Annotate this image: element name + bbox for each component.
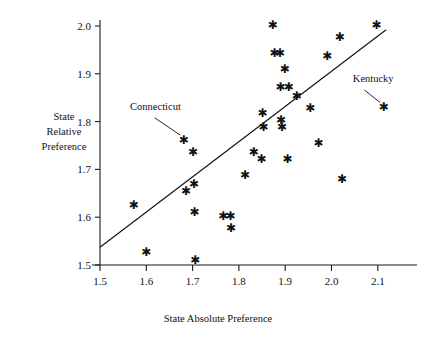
data-point[interactable]: ✱ (337, 172, 347, 186)
data-point[interactable]: ✱ (277, 120, 287, 134)
x-tick-label: 1.6 (139, 275, 153, 287)
data-point[interactable]: ✱ (379, 100, 389, 114)
data-point[interactable]: ✱ (240, 168, 250, 182)
data-point[interactable]: ✱ (188, 145, 198, 159)
annotation-label: Kentucky (353, 73, 395, 84)
data-point[interactable]: ✱ (257, 106, 267, 120)
x-tick-label: 2.1 (371, 275, 385, 287)
data-point[interactable]: ✱ (141, 245, 151, 259)
y-tick-label: 2.0 (77, 20, 91, 32)
chart-canvas: 1.51.61.71.81.92.01.51.61.71.81.92.02.1✱… (0, 0, 436, 339)
scatter-plot-figure: 1.51.61.71.81.92.01.51.61.71.81.92.02.1✱… (0, 0, 436, 339)
x-tick-label: 1.9 (278, 275, 292, 287)
y-axis-title-line: Relative (47, 126, 82, 137)
data-point[interactable]: ✱ (189, 177, 199, 191)
data-point[interactable]: ✱ (258, 120, 268, 134)
annotation-leader-line (155, 118, 180, 135)
data-point[interactable]: ✱ (322, 49, 332, 63)
x-tick-label: 2.0 (325, 275, 339, 287)
data-point[interactable]: ✱ (371, 18, 381, 32)
data-point[interactable]: ✱ (280, 62, 290, 76)
data-point[interactable]: ✱ (129, 198, 139, 212)
data-point[interactable]: ✱ (305, 101, 315, 115)
x-tick-label: 1.7 (186, 275, 200, 287)
regression-line (100, 30, 386, 247)
x-axis-title: State Absolute Preference (164, 313, 273, 324)
x-tick-label: 1.8 (232, 275, 246, 287)
y-tick-label: 1.9 (77, 68, 91, 80)
data-point[interactable]: ✱ (282, 152, 292, 166)
data-point[interactable]: ✱ (257, 152, 267, 166)
y-tick-label: 1.7 (77, 163, 91, 175)
data-point[interactable]: ✱ (335, 30, 345, 44)
data-point[interactable]: ✱ (292, 89, 302, 103)
annotation-label: Connecticut (130, 101, 181, 112)
annotation-leader-line (364, 90, 380, 102)
y-axis-title-line: Preference (42, 141, 87, 152)
data-point[interactable]: ✱ (275, 46, 285, 60)
data-point[interactable]: ✱ (314, 136, 324, 150)
x-tick-label: 1.5 (93, 275, 107, 287)
y-axis-title-line: State (54, 111, 75, 122)
data-point[interactable]: ✱ (268, 18, 278, 32)
data-point[interactable]: ✱ (190, 253, 200, 267)
data-point[interactable]: ✱ (226, 221, 236, 235)
y-tick-label: 1.5 (77, 259, 91, 271)
y-tick-label: 1.6 (77, 211, 91, 223)
data-point[interactable]: ✱ (189, 205, 199, 219)
